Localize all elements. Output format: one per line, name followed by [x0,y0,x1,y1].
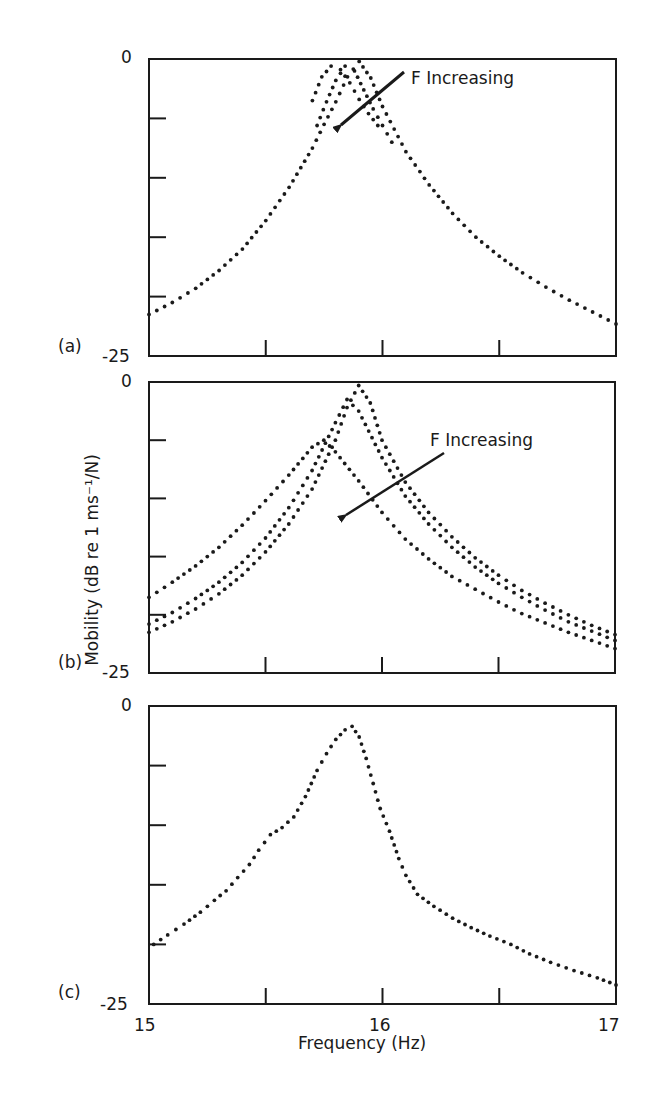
x-ticks [266,657,499,673]
data-point [390,140,394,144]
data-point [205,555,209,559]
data-point [274,829,278,833]
panel-a: F Increasing 0 -25 (a) [58,47,618,366]
data-point [468,551,472,555]
data-point [371,782,375,786]
data-point [613,633,617,637]
data-point [353,391,357,395]
data-point [372,83,376,87]
data-point [380,456,384,460]
data-point [481,592,485,596]
data-point [292,468,296,472]
data-point [485,573,489,577]
data-point [310,469,314,473]
data-point [613,647,617,651]
data-point [422,504,426,508]
data-point [292,515,296,519]
data-point [479,569,483,573]
data-point [427,522,431,526]
data-point [400,865,404,869]
data-point [330,445,334,449]
data-point [595,976,599,980]
data-point [450,535,454,539]
data-point [497,582,501,586]
data-point [307,153,311,157]
data-point [352,473,356,477]
data-point [489,596,493,600]
data-point [223,575,227,579]
data-point [320,75,324,79]
f-increasing-arrow [341,72,404,125]
data-point [403,480,407,484]
data-point [278,199,282,203]
data-point [520,595,524,599]
data-point [361,65,365,69]
data-point [170,611,174,615]
data-point [528,600,532,604]
data-point [462,545,466,549]
y-ticks [149,118,166,296]
data-point [378,431,382,435]
plot-frame [149,59,616,356]
data-point [512,591,516,595]
data-point [343,462,347,466]
data-point [170,301,174,305]
data-point [504,586,508,590]
data-point [342,83,346,87]
data-point [529,276,533,280]
data-point [300,801,304,805]
data-point [343,74,347,78]
data-point [186,291,190,295]
data-point [264,219,268,223]
data-point [504,604,508,608]
data-point [350,724,354,728]
data-point [486,245,490,249]
data-point [605,635,609,639]
data-point [291,179,295,183]
data-point [438,908,442,912]
panel-label-c: (c) [58,982,81,1002]
data-point [392,459,396,463]
data-point [178,606,182,610]
data-point [605,644,609,648]
data-point [240,573,244,577]
data-point [360,416,364,420]
data-point [264,536,268,540]
data-point [474,235,478,239]
data-point [456,550,460,554]
data-point [378,98,382,102]
data-point [536,280,540,284]
data-point [223,263,227,267]
data-point [413,505,417,509]
data-point [206,278,210,282]
data-point [339,68,343,72]
data-point [433,528,437,532]
data-point [381,124,385,128]
data-point [590,623,594,627]
data-point [356,75,360,79]
data-point [515,946,519,950]
x-tick-label-17: 17 [598,1015,620,1035]
data-point [492,250,496,254]
data-point [385,112,389,116]
data-point [451,212,455,216]
data-point [357,409,361,413]
data-point [330,107,334,111]
data-point [473,556,477,560]
data-point [466,583,470,587]
data-point [433,517,437,521]
data-point [602,978,606,982]
data-point [606,318,610,322]
data-point [205,589,209,593]
data-point [380,438,384,442]
data-point [368,401,372,405]
data-point [159,938,163,942]
f-increasing-label: F Increasing [430,430,533,450]
data-point [400,488,404,492]
data-point [295,172,299,176]
data-point [163,623,167,627]
data-point [147,595,151,599]
data-point [163,615,167,619]
data-point [468,560,472,564]
data-point [375,423,379,427]
